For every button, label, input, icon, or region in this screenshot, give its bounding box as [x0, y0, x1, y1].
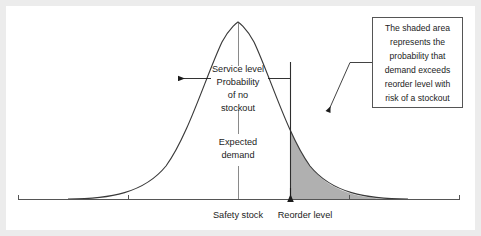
service-level-line-2: Probability [217, 77, 260, 87]
callout-line-2: represents the [390, 37, 445, 47]
callout-line-4: demand exceeds [385, 65, 450, 75]
distribution-chart: The shaded area represents the probabili… [6, 6, 475, 230]
callout-leader-line [328, 63, 372, 113]
expected-demand-line-2: demand [221, 150, 254, 160]
callout-line-6: risk of a stockout [385, 93, 450, 103]
safety-stock-label: Safety stock [213, 210, 263, 220]
service-level-line-1: Service level [212, 64, 264, 74]
figure-frame: The shaded area represents the probabili… [0, 0, 481, 236]
figure-canvas: The shaded area represents the probabili… [6, 6, 475, 230]
callout-line-1: The shaded area [385, 23, 450, 33]
expected-demand-line-1: Expected [219, 137, 257, 147]
service-level-line-4: stockout [221, 103, 256, 113]
reorder-level-label: Reorder level [278, 210, 333, 220]
callout-line-5: reorder level with [385, 79, 451, 89]
callout-line-3: probability that [390, 51, 447, 61]
service-level-line-3: of no [228, 90, 248, 100]
